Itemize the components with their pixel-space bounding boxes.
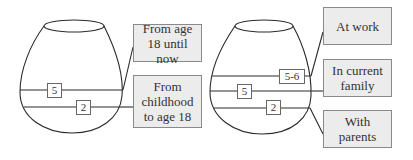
label-with-parents: With parents [323,110,392,148]
label-from-childhood-to-age-18: From childhood to age 18 [133,75,202,128]
label-from-age-18-until-now: From age 18 until now [133,24,202,62]
level-value-upper-left: 5 [47,83,62,98]
label-at-work: At work [323,7,392,45]
left-vase [20,20,133,133]
level-value-middle-right: 5 [237,84,252,99]
level-value-bottom-right: 2 [266,100,281,115]
right-vase [210,20,323,134]
level-value-top-right: 5-6 [279,69,305,84]
level-value-lower-left: 2 [76,100,91,115]
label-in-current-family: In current family [323,59,392,97]
